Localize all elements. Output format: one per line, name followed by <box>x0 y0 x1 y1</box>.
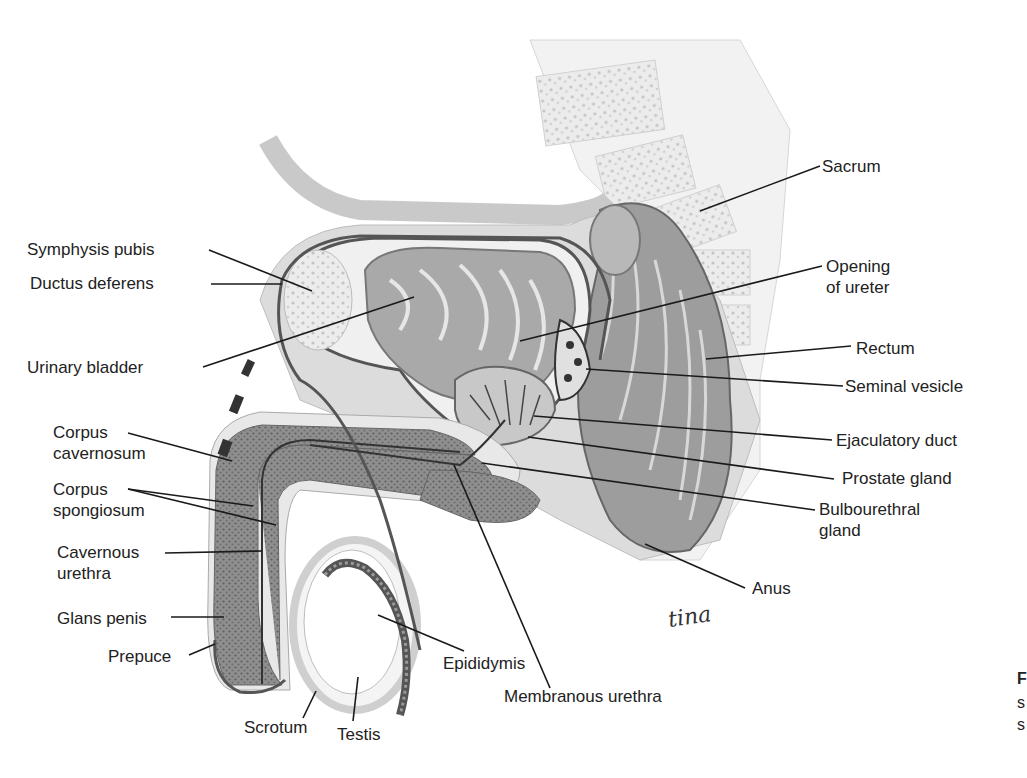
label-rectum: Rectum <box>856 339 915 358</box>
label-membranous-urethra: Membranous urethra <box>504 687 662 706</box>
label-ejaculatory-duct: Ejaculatory duct <box>836 431 957 450</box>
label-prepuce: Prepuce <box>108 647 171 666</box>
label-testis: Testis <box>337 725 380 744</box>
symphysis-shape <box>284 250 352 350</box>
leader-line-scrotum <box>303 691 316 718</box>
label-bulbourethral-gland: Bulbourethralgland <box>819 500 920 540</box>
caption-fragment-1: F <box>1017 670 1027 688</box>
label-anus: Anus <box>752 579 791 598</box>
anatomy-diagram: SacrumSymphysis pubisOpeningof ureterDuc… <box>0 0 1027 778</box>
label-scrotum: Scrotum <box>244 718 307 737</box>
label-epididymis: Epididymis <box>443 654 525 673</box>
label-prostate-gland: Prostate gland <box>842 469 952 488</box>
label-seminal-vesicle: Seminal vesicle <box>845 377 963 396</box>
label-opening-of-ureter: Openingof ureter <box>826 257 890 297</box>
label-corpus-cavernosum: Corpuscavernosum <box>53 423 146 463</box>
label-urinary-bladder: Urinary bladder <box>27 358 144 377</box>
label-symphysis-pubis: Symphysis pubis <box>27 240 155 259</box>
label-cavernous-urethra: Cavernousurethra <box>57 543 139 583</box>
label-ductus-deferens: Ductus deferens <box>30 274 154 293</box>
label-corpus-spongiosum: Corpusspongiosum <box>53 480 145 520</box>
label-sacrum: Sacrum <box>822 157 881 176</box>
abdominal-wall <box>268 140 610 215</box>
caption-fragment-2: s <box>1017 694 1025 712</box>
caption-fragment-3: s <box>1017 716 1025 734</box>
label-glans-penis: Glans penis <box>57 609 147 628</box>
